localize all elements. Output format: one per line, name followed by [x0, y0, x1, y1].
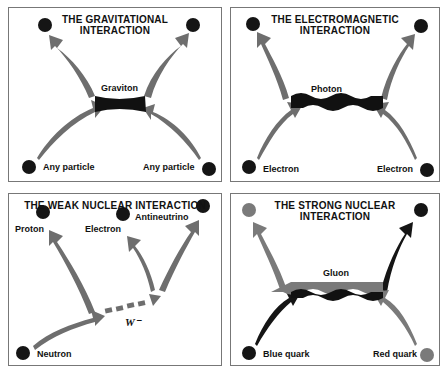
arrow-up-right [144, 33, 189, 98]
mediator-label: Gluon [323, 268, 349, 278]
panel-electromagnetic: THE ELECTROMAGNETICINTERACTION Photon El… [230, 7, 440, 182]
mediator-label: Graviton [101, 83, 138, 93]
panel-title: THE STRONG NUCLEARINTERACTION [231, 200, 439, 222]
panel-title: THE WEAK NUCLEAR INTERACTION [9, 200, 221, 211]
particle-label-right: Any particle [143, 162, 195, 172]
graviton-link [95, 96, 146, 112]
particle-label-antineutrino: Antineutrino [135, 212, 189, 222]
mediator-label: Photon [311, 84, 342, 94]
mediator-label: W⁻ [125, 316, 141, 329]
particle-label-neutron: Neutron [37, 349, 72, 359]
particle-label-blue-quark: Blue quark [263, 349, 310, 359]
w-boson-dashed [105, 294, 161, 314]
gluon-link-top [271, 282, 383, 295]
particle-label-left: Any particle [43, 162, 95, 172]
arrow-up-left [49, 35, 95, 98]
photon-link [291, 93, 383, 111]
panel-title: THE ELECTROMAGNETICINTERACTION [231, 14, 439, 36]
arrow-in-left [37, 100, 105, 160]
particle-bottom-right [202, 162, 216, 176]
particle-label-proton: Proton [15, 224, 44, 234]
weak-diagram [9, 194, 223, 367]
panel-gravitational: THE GRAVITATIONALINTERACTION Graviton An… [8, 7, 222, 182]
particle-label-right: Electron [377, 164, 413, 174]
panel-weak: THE WEAK NUCLEAR INTERACTION Proton Elec… [8, 193, 222, 366]
particle-label-electron: Electron [85, 224, 121, 234]
particle-bottom-left [22, 160, 36, 174]
particle-label-red-quark: Red quark [373, 349, 417, 359]
panel-title: THE GRAVITATIONALINTERACTION [9, 14, 221, 36]
particle-label-left: Electron [263, 164, 299, 174]
arrow-in-right [143, 104, 201, 160]
panel-strong: THE STRONG NUCLEARINTERACTION Gluon Blue… [230, 193, 440, 366]
